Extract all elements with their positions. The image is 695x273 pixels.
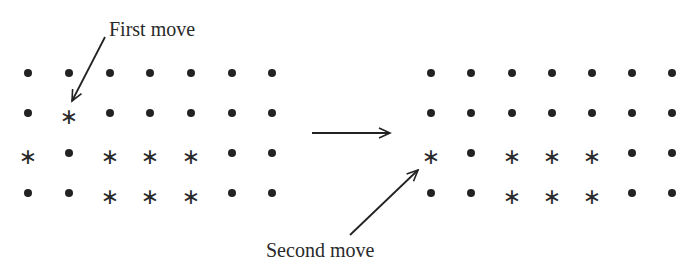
before-peg-cell bbox=[222, 103, 242, 123]
asterisk-icon: ∗ bbox=[503, 146, 521, 168]
before-moved-peg-cell: ∗ bbox=[100, 183, 120, 203]
after-peg-cell bbox=[461, 183, 481, 203]
dot-icon bbox=[508, 109, 516, 117]
after-moved-peg-cell: ∗ bbox=[421, 143, 441, 163]
before-peg-cell bbox=[18, 63, 38, 83]
dot-icon bbox=[268, 189, 276, 197]
asterisk-icon: ∗ bbox=[19, 146, 37, 168]
after-moved-peg-cell: ∗ bbox=[582, 183, 602, 203]
dot-icon bbox=[668, 69, 676, 77]
asterisk-icon: ∗ bbox=[141, 186, 159, 208]
dot-icon bbox=[187, 69, 195, 77]
dot-icon bbox=[628, 189, 636, 197]
after-peg-cell bbox=[582, 63, 602, 83]
before-peg-cell bbox=[59, 143, 79, 163]
dot-icon bbox=[588, 109, 596, 117]
asterisk-icon: ∗ bbox=[101, 186, 119, 208]
dot-icon bbox=[146, 69, 154, 77]
dot-icon bbox=[427, 69, 435, 77]
dot-icon bbox=[548, 109, 556, 117]
second-move-label: Second move bbox=[266, 240, 374, 260]
asterisk-icon: ∗ bbox=[422, 146, 440, 168]
dot-icon bbox=[268, 149, 276, 157]
after-peg-cell bbox=[662, 183, 682, 203]
after-moved-peg-cell: ∗ bbox=[582, 143, 602, 163]
dot-icon bbox=[146, 109, 154, 117]
before-peg-cell bbox=[181, 63, 201, 83]
before-moved-peg-cell: ∗ bbox=[140, 143, 160, 163]
after-moved-peg-cell: ∗ bbox=[542, 183, 562, 203]
dot-icon bbox=[467, 189, 475, 197]
before-moved-peg-cell: ∗ bbox=[100, 143, 120, 163]
before-peg-cell bbox=[262, 143, 282, 163]
asterisk-icon: ∗ bbox=[141, 146, 159, 168]
after-moved-peg-cell: ∗ bbox=[502, 183, 522, 203]
after-peg-cell bbox=[542, 63, 562, 83]
dot-icon bbox=[65, 149, 73, 157]
before-peg-cell bbox=[222, 63, 242, 83]
after-peg-cell bbox=[662, 103, 682, 123]
after-peg-cell bbox=[421, 103, 441, 123]
after-peg-cell bbox=[542, 103, 562, 123]
after-peg-cell bbox=[622, 63, 642, 83]
dot-icon bbox=[668, 149, 676, 157]
before-peg-cell bbox=[222, 143, 242, 163]
arrows-layer bbox=[0, 0, 695, 273]
asterisk-icon: ∗ bbox=[543, 186, 561, 208]
before-peg-cell bbox=[59, 183, 79, 203]
dot-icon bbox=[24, 109, 32, 117]
before-peg-cell bbox=[181, 103, 201, 123]
dot-icon bbox=[106, 109, 114, 117]
after-moved-peg-cell: ∗ bbox=[542, 143, 562, 163]
after-peg-cell bbox=[622, 103, 642, 123]
before-peg-cell bbox=[262, 103, 282, 123]
dot-icon bbox=[427, 189, 435, 197]
asterisk-icon: ∗ bbox=[101, 146, 119, 168]
before-peg-cell bbox=[222, 183, 242, 203]
dot-icon bbox=[548, 69, 556, 77]
dot-icon bbox=[268, 109, 276, 117]
dot-icon bbox=[228, 189, 236, 197]
second-move-arrow-icon bbox=[350, 170, 418, 235]
asterisk-icon: ∗ bbox=[182, 186, 200, 208]
dot-icon bbox=[228, 69, 236, 77]
after-peg-cell bbox=[421, 183, 441, 203]
dot-icon bbox=[588, 69, 596, 77]
asterisk-icon: ∗ bbox=[60, 106, 78, 128]
dot-icon bbox=[187, 109, 195, 117]
asterisk-icon: ∗ bbox=[182, 146, 200, 168]
before-peg-cell bbox=[100, 103, 120, 123]
asterisk-icon: ∗ bbox=[583, 186, 601, 208]
asterisk-icon: ∗ bbox=[543, 146, 561, 168]
peg-solitaire-move-diagram: First move Second move ∗∗∗∗∗∗∗∗ ∗∗∗∗∗∗∗ bbox=[0, 0, 695, 273]
after-peg-cell bbox=[502, 63, 522, 83]
dot-icon bbox=[24, 69, 32, 77]
dot-icon bbox=[228, 149, 236, 157]
dot-icon bbox=[668, 189, 676, 197]
before-peg-cell bbox=[59, 63, 79, 83]
before-peg-cell bbox=[262, 183, 282, 203]
dot-icon bbox=[628, 149, 636, 157]
before-peg-cell bbox=[18, 183, 38, 203]
before-peg-cell bbox=[18, 103, 38, 123]
dot-icon bbox=[467, 69, 475, 77]
before-moved-peg-cell: ∗ bbox=[59, 103, 79, 123]
dot-icon bbox=[268, 69, 276, 77]
asterisk-icon: ∗ bbox=[503, 186, 521, 208]
after-peg-cell bbox=[461, 143, 481, 163]
before-moved-peg-cell: ∗ bbox=[18, 143, 38, 163]
before-moved-peg-cell: ∗ bbox=[140, 183, 160, 203]
after-peg-cell bbox=[461, 63, 481, 83]
dot-icon bbox=[467, 149, 475, 157]
before-moved-peg-cell: ∗ bbox=[181, 183, 201, 203]
after-peg-cell bbox=[662, 63, 682, 83]
after-peg-cell bbox=[662, 143, 682, 163]
before-peg-cell bbox=[140, 103, 160, 123]
dot-icon bbox=[228, 109, 236, 117]
after-peg-cell bbox=[502, 103, 522, 123]
dot-icon bbox=[427, 109, 435, 117]
dot-icon bbox=[106, 69, 114, 77]
after-peg-cell bbox=[622, 143, 642, 163]
dot-icon bbox=[24, 189, 32, 197]
dot-icon bbox=[65, 189, 73, 197]
